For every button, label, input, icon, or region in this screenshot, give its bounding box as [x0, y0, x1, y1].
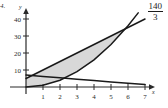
y-tick-label: 40 [14, 16, 22, 24]
y-axis-label: y [18, 4, 22, 10]
x-tick-label: 4 [92, 93, 96, 101]
y-axis-arrowhead [23, 8, 29, 14]
graph-figure: 1234567 10203040 x y [0, 0, 168, 108]
x-axis-label: x [151, 89, 155, 95]
x-tick-label: 7 [143, 93, 147, 101]
curve-upper-line [26, 19, 145, 79]
y-tick-label: 10 [14, 67, 22, 75]
y-tick-label: 30 [14, 33, 22, 41]
x-tick-label: 3 [75, 93, 79, 101]
x-tick-label: 1 [41, 93, 45, 101]
x-tick-label: 2 [58, 93, 62, 101]
y-axis-ticks: 10203040 [14, 16, 29, 75]
x-tick-label: 6 [126, 93, 130, 101]
x-tick-label: 5 [109, 93, 113, 101]
y-tick-label: 20 [14, 50, 22, 58]
